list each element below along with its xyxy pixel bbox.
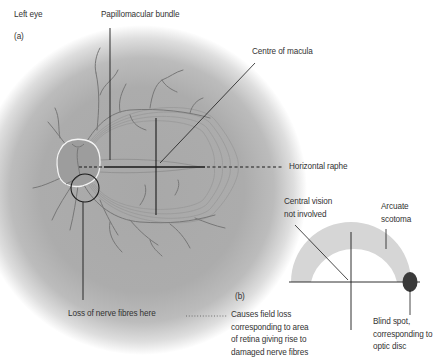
blind-spot-line3: optic disc — [373, 341, 432, 354]
arcuate-scotoma-label: Arcuate scotoma — [381, 201, 411, 226]
fundus — [0, 25, 307, 355]
caption-line: damaged nerve fibres — [231, 347, 309, 360]
optic-disc — [57, 139, 100, 186]
field-loss-caption: Causes field loss corresponding to area … — [231, 309, 309, 359]
blind-spot-label: Blind spot, corresponding to optic disc — [373, 316, 432, 354]
central-vision-line2: not involved — [284, 209, 332, 222]
arcuate-scotoma-line1: Arcuate — [381, 201, 411, 214]
central-vision-label: Central vision not involved — [284, 196, 332, 221]
eye-side-label: Left eye — [14, 9, 42, 22]
papillomacular-bundle-label: Papillomacular bundle — [101, 9, 179, 22]
blind-spot — [403, 272, 418, 292]
caption-line: corresponding to area — [231, 322, 309, 335]
panel-b-label: (b) — [235, 291, 245, 304]
centre-of-macula-label: Centre of macula — [252, 46, 313, 59]
central-vision-line1: Central vision — [284, 196, 332, 209]
horizontal-raphe-label: Horizontal raphe — [289, 161, 347, 174]
blind-spot-line1: Blind spot, — [373, 316, 432, 329]
visual-field-plot — [289, 222, 420, 330]
arcuate-scotoma-line2: scotoma — [381, 214, 411, 227]
blind-spot-line2: corresponding to — [373, 329, 432, 342]
loss-of-nerve-fibres-label: Loss of nerve fibres here — [68, 308, 156, 321]
caption-line: Causes field loss — [231, 309, 309, 322]
caption-line: of retina giving rise to — [231, 334, 309, 347]
panel-a-label: (a) — [14, 31, 24, 44]
